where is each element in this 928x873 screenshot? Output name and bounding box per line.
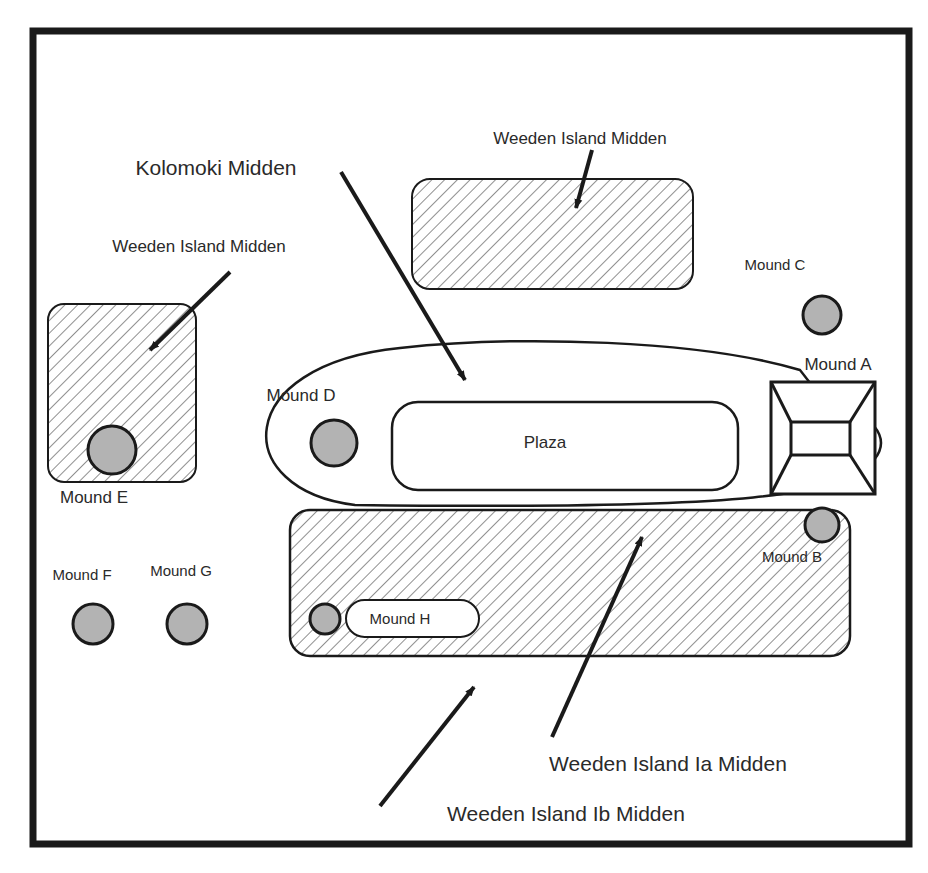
mound-f-label: Mound F xyxy=(52,566,111,583)
weeden-midden-left-label: Weeden Island Midden xyxy=(112,237,286,256)
mound-b-label: Mound B xyxy=(762,548,822,565)
plaza-area: Plaza xyxy=(392,402,738,490)
mound-a-label: Mound A xyxy=(804,355,872,374)
plaza-label: Plaza xyxy=(524,433,567,452)
weeden-ib-midden-label: Weeden Island Ib Midden xyxy=(447,802,685,825)
mound-c: Mound C xyxy=(745,256,841,334)
weeden-island-midden-top-area xyxy=(412,179,693,289)
kolomoki-midden-label: Kolomoki Midden xyxy=(135,156,296,179)
mound-d-label: Mound D xyxy=(267,386,336,405)
weeden-ia-midden-label: Weeden Island Ia Midden xyxy=(549,752,787,775)
site-plan-diagram: Plaza Mound H Mound A Mound B Mound C Mo… xyxy=(0,0,928,873)
mound-h-label: Mound H xyxy=(370,610,431,627)
weeden-ib-arrow xyxy=(380,687,474,806)
mound-c-label: Mound C xyxy=(745,256,806,273)
mound-e-label: Mound E xyxy=(60,488,128,507)
mound-f: Mound F xyxy=(52,566,113,644)
mound-g-label: Mound G xyxy=(150,562,212,579)
mound-g: Mound G xyxy=(150,562,212,644)
weeden-midden-top-label: Weeden Island Midden xyxy=(493,129,667,148)
